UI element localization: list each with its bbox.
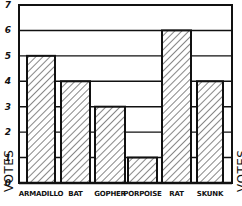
- x-category-label: BAT: [68, 190, 83, 198]
- y-tick-label: 5: [5, 51, 11, 61]
- y-axis-title-right: VOTES: [235, 150, 242, 192]
- y-tick-label: 2: [5, 127, 11, 137]
- bar-gopher: [95, 107, 125, 183]
- bar-skunk: [197, 81, 223, 183]
- x-category-label: SKUNK: [197, 190, 224, 198]
- x-category-label: PORPOISE: [123, 190, 162, 198]
- y-tick-label: 3: [5, 102, 11, 112]
- x-axis-labels: ARMADILLOBATGOPHERPORPOISERATSKUNK: [19, 190, 224, 198]
- y-tick-label: 7: [5, 0, 12, 10]
- y-tick-label: 6: [5, 25, 11, 35]
- x-category-label: RAT: [169, 190, 184, 198]
- x-category-label: GOPHER: [94, 190, 126, 198]
- y-tick-label: 4: [4, 76, 11, 86]
- bar-rat: [162, 30, 191, 183]
- y-axis-title: VOTES: [2, 150, 16, 192]
- bar-chart: 01234567 ARMADILLOBATGOPHERPORPOISERATSK…: [0, 0, 242, 206]
- bar-armadillo: [27, 56, 55, 183]
- bar-bat: [61, 81, 90, 183]
- bar-porpoise: [128, 158, 157, 183]
- x-category-label: ARMADILLO: [19, 190, 64, 198]
